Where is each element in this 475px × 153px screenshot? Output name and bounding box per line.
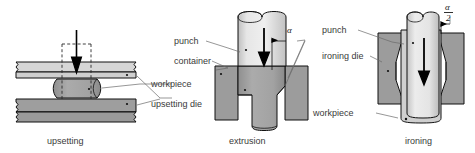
caption-extrusion: extrusion <box>229 136 266 146</box>
label-column-right: punch ironing die workpiece <box>312 25 364 118</box>
label-alpha-ironing-denominator: 2 <box>446 13 451 23</box>
angle-annotation-ironing: α 2 <box>441 2 453 34</box>
label-workpiece-upsetting: workpiece <box>150 79 192 89</box>
workpiece-extrusion <box>238 66 285 131</box>
punch-ironing-marker-dot <box>412 42 414 44</box>
label-upsetting-die: upsetting die <box>151 99 202 109</box>
label-ironing-die: ironing die <box>322 51 364 61</box>
label-alpha-ironing-numerator: α <box>445 2 450 12</box>
ironing-die-marker-dot <box>387 70 389 72</box>
container-marker-dot <box>220 73 222 75</box>
workpiece-upsetting <box>53 79 101 98</box>
forming-processes-figure: upsetting punch container workpiece upse… <box>0 0 475 153</box>
label-punch-ironing: punch <box>322 25 347 35</box>
label-workpiece-ironing: workpiece <box>312 108 354 118</box>
lower-die-marker-dot <box>126 103 128 105</box>
label-alpha-extrusion: α <box>287 25 292 35</box>
panel-extrusion: α extrusion <box>206 12 308 147</box>
caption-upsetting: upsetting <box>47 136 84 146</box>
label-column-left: punch container workpiece upsetting die <box>150 36 211 109</box>
workpiece-extrusion-marker-dot <box>244 89 246 91</box>
die-marker-dot <box>126 74 128 76</box>
workpiece-ironing-marker-dot <box>405 118 407 120</box>
lower-upsetting-die <box>16 99 136 122</box>
punch-marker-dot <box>245 49 247 51</box>
label-punch-extrusion: punch <box>174 36 199 46</box>
workpiece-marker-dot <box>88 88 90 90</box>
caption-ironing: ironing <box>405 136 432 146</box>
punch-ironing <box>407 12 439 118</box>
label-container-extrusion: container <box>174 56 211 66</box>
panel-ironing: α 2 ironing <box>358 2 464 146</box>
panel-upsetting: upsetting <box>16 30 172 146</box>
